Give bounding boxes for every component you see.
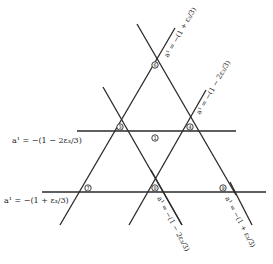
label-bottom-right-diagonal: a¹ = −(1 + ε₃/3) bbox=[223, 195, 257, 249]
descending-line-outer bbox=[137, 24, 236, 195]
region-marker-center: 1 bbox=[152, 135, 158, 141]
label-mid-right-diagonal: a¹ = −(1 − 2ε₃/3) bbox=[195, 59, 233, 116]
label-top-right-diagonal: a¹ = −(1 + ε₃/3) bbox=[163, 6, 198, 59]
svg-text:8: 8 bbox=[153, 185, 156, 191]
region-marker-bottom-right: 9 bbox=[220, 185, 226, 191]
region-marker-top: 6 bbox=[152, 62, 158, 68]
svg-text:9: 9 bbox=[221, 185, 224, 191]
region-marker-mid-right: 4 bbox=[187, 124, 193, 130]
region-marker-bottom-left: 7 bbox=[85, 185, 91, 191]
label-upper-horizontal: a¹ = −(1 − 2ε₃/3) bbox=[12, 136, 82, 145]
label-lower-horizontal: a¹ = −(1 + ε₃/3) bbox=[4, 196, 69, 205]
triangle-line-diagram: 6 3 4 1 7 8 9 a¹ = −(1 − 2ε₃/3) a¹ = −(1… bbox=[0, 0, 273, 264]
svg-text:1: 1 bbox=[153, 135, 156, 141]
label-bottom-center-diagonal: a¹ = −(1 − 2ε₃/3) bbox=[155, 195, 191, 253]
region-marker-bottom-center: 8 bbox=[152, 185, 158, 191]
svg-text:3: 3 bbox=[118, 124, 121, 130]
svg-text:6: 6 bbox=[153, 62, 156, 68]
svg-text:4: 4 bbox=[188, 124, 191, 130]
region-marker-mid-left: 3 bbox=[117, 124, 123, 130]
svg-text:7: 7 bbox=[86, 185, 89, 191]
